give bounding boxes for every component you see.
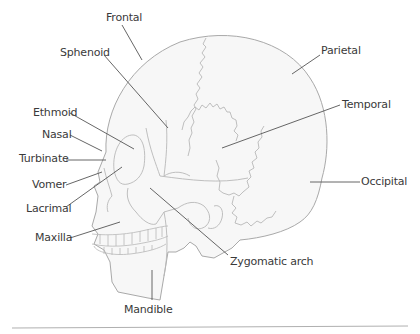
- label-frontal: Frontal: [106, 11, 142, 24]
- label-nasal: Nasal: [42, 128, 72, 141]
- leader-frontal: [122, 25, 142, 60]
- label-mandible: Mandible: [124, 303, 172, 316]
- label-maxilla: Maxilla: [35, 231, 72, 244]
- label-vomer: Vomer: [32, 178, 66, 191]
- label-lacrimal: Lacrimal: [26, 202, 71, 215]
- label-parietal: Parietal: [321, 44, 361, 57]
- leader-vomer: [66, 172, 102, 185]
- label-sphenoid: Sphenoid: [60, 46, 110, 59]
- leader-nasal: [70, 135, 102, 151]
- label-occipital: Occipital: [361, 175, 407, 188]
- label-temporal: Temporal: [342, 98, 391, 111]
- label-zygomatic-arch: Zygomatic arch: [230, 255, 313, 268]
- baseline-divider: [12, 326, 408, 328]
- label-turbinate: Turbinate: [19, 152, 69, 165]
- label-ethmoid: Ethmoid: [33, 106, 77, 119]
